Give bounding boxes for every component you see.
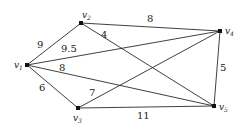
edges xyxy=(27,23,220,108)
weight-v1-v3: 6 xyxy=(39,82,45,93)
edge-weights: 9 9.5 8 6 8 4 7 11 5 xyxy=(37,13,226,121)
weight-v2-v5: 4 xyxy=(101,29,107,40)
label-v4: v4 xyxy=(225,26,234,37)
label-v5: v5 xyxy=(219,102,228,113)
node-v2 xyxy=(79,21,83,25)
node-v4 xyxy=(218,29,222,33)
weight-v1-v4: 9.5 xyxy=(61,43,77,54)
edge-v3-v5 xyxy=(78,106,214,108)
weight-v3-v5: 11 xyxy=(137,110,150,121)
weight-v2-v4: 8 xyxy=(147,13,153,24)
weight-v1-v5: 8 xyxy=(59,62,65,73)
label-v3: v3 xyxy=(73,113,82,124)
edge-v1-v5 xyxy=(27,65,214,106)
label-v2: v2 xyxy=(82,10,91,21)
node-v5 xyxy=(212,104,216,108)
label-v1: v1 xyxy=(14,60,23,71)
weighted-graph: 9 9.5 8 6 8 4 7 11 5 v1 v2 v3 v4 v5 xyxy=(0,0,246,131)
node-v3 xyxy=(76,106,80,110)
node-v1 xyxy=(25,63,29,67)
weight-v3-v4: 7 xyxy=(89,87,95,98)
weight-v1-v2: 9 xyxy=(37,39,43,50)
edge-v1-v4 xyxy=(27,31,220,65)
weight-v4-v5: 5 xyxy=(220,62,226,73)
edge-v1-v3 xyxy=(27,65,78,108)
nodes xyxy=(25,21,222,110)
